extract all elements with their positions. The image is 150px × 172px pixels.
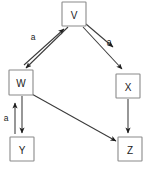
edge-label-a-yw: a	[4, 113, 9, 123]
svg-text:W: W	[16, 78, 26, 89]
edge-w-to-z	[30, 93, 116, 141]
svg-text:X: X	[125, 82, 132, 93]
svg-text:Y: Y	[19, 145, 26, 156]
node-y[interactable]: Y	[10, 137, 34, 161]
node-v[interactable]: V	[62, 2, 86, 26]
graph-canvas: a a a V W X Y Z	[0, 0, 150, 172]
edge-v-to-x-b	[83, 27, 122, 69]
node-x[interactable]: X	[116, 74, 140, 98]
svg-text:Z: Z	[127, 145, 133, 156]
node-z[interactable]: Z	[118, 137, 142, 161]
svg-text:V: V	[71, 10, 78, 21]
edge-label-a-vx: a	[107, 37, 112, 47]
graph-diagram: a a a V W X Y Z	[0, 0, 150, 172]
edge-label-a-vw: a	[31, 32, 36, 42]
node-w[interactable]: W	[9, 70, 33, 95]
